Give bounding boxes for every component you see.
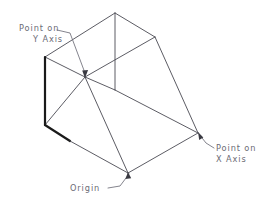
- edge-midcenter-to-xpoint: [115, 90, 198, 133]
- edge-topright-to-xpoint: [155, 37, 198, 133]
- edge-topfront-to-leftbottom: [45, 77, 85, 125]
- top-face-edges: [45, 13, 155, 77]
- edge-topfront-to-topleft: [45, 57, 85, 77]
- label-point-on-y-axis-line2: Y Axis: [32, 34, 63, 44]
- label-point-on-x-axis-line2: X Axis: [216, 154, 247, 164]
- edge-topfront-to-origin: [85, 77, 128, 173]
- leader-arrowhead-y-axis: [82, 70, 88, 78]
- label-point-on-y-axis-line1: Point on: [19, 23, 59, 33]
- edge-leftbottom-to-origin: [70, 141, 128, 173]
- isometric-wireframe-svg: Point on Y Axis Point on X Axis Origin: [0, 0, 274, 209]
- diagram-canvas: Point on Y Axis Point on X Axis Origin: [0, 0, 274, 209]
- bottom-face-edges: [45, 37, 198, 173]
- leader-arrowhead-origin: [125, 172, 131, 179]
- edge-topright-to-topfront: [85, 37, 155, 77]
- edge-origin-to-xpoint: [128, 133, 198, 173]
- edge-leftbottom-to-origin-bold: [45, 125, 70, 141]
- label-origin: Origin: [70, 183, 100, 193]
- label-point-on-x-axis-line1: Point on: [216, 143, 256, 153]
- leader-point-on-x-axis: [198, 132, 214, 148]
- leader-origin: [108, 172, 131, 188]
- leader-line-origin: [108, 174, 129, 188]
- edge-apex-to-topright: [115, 13, 155, 37]
